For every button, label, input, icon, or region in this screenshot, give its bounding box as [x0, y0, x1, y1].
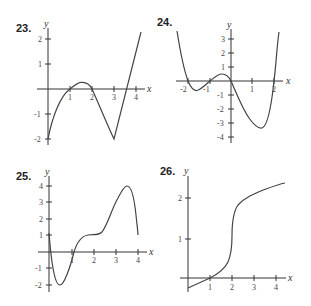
y-axis-label: y — [44, 166, 50, 177]
svg-text:1: 1 — [178, 235, 182, 244]
svg-text:-1: -1 — [35, 264, 42, 273]
svg-text:1: 1 — [250, 85, 254, 94]
svg-text:4: 4 — [39, 182, 43, 191]
svg-text:2: 2 — [92, 256, 96, 265]
svg-text:-2: -2 — [180, 85, 187, 94]
svg-text:2: 2 — [39, 215, 43, 224]
graphs-svg: x y 1 2 3 4 2 1 -1 -2 x y -2 -1 1 2 — [0, 0, 311, 306]
svg-text:-3: -3 — [217, 119, 224, 128]
x-axis-label: x — [146, 83, 152, 94]
graph-26: x y 1 2 3 4 2 1 — [178, 165, 293, 292]
x-axis-label: x — [287, 272, 293, 283]
svg-text:4: 4 — [134, 93, 138, 102]
curve-26 — [188, 183, 285, 288]
svg-text:-4: -4 — [217, 133, 224, 142]
y-axis-label: y — [226, 19, 232, 30]
svg-text:-1: -1 — [34, 110, 41, 119]
graph-25: x y 1 2 3 4 4 3 2 1 -1 -2 — [35, 166, 154, 292]
svg-text:2: 2 — [178, 194, 182, 203]
x-axis-label: x — [285, 75, 291, 86]
svg-text:4: 4 — [136, 256, 140, 265]
svg-text:3: 3 — [112, 93, 116, 102]
svg-text:2: 2 — [38, 35, 42, 44]
exercise-graphs-panel: 23. 24. 25. 26. x y 1 2 3 4 2 1 -1 -2 x — [0, 0, 311, 306]
curve-23 — [48, 32, 141, 139]
svg-text:1: 1 — [68, 93, 72, 102]
svg-text:4: 4 — [274, 283, 278, 292]
svg-text:1: 1 — [221, 63, 225, 72]
graph-24: x y -2 -1 1 2 3 2 1 -1 -2 -3 -4 — [176, 19, 291, 143]
svg-text:-2: -2 — [34, 135, 41, 144]
y-axis-label: y — [43, 18, 49, 29]
svg-text:3: 3 — [114, 256, 118, 265]
svg-text:3: 3 — [39, 198, 43, 207]
svg-text:3: 3 — [221, 35, 225, 44]
y-axis-label: y — [183, 165, 189, 176]
curve-25 — [49, 186, 138, 285]
svg-text:-2: -2 — [35, 281, 42, 290]
svg-text:2: 2 — [221, 49, 225, 58]
svg-text:2: 2 — [230, 283, 234, 292]
svg-text:2: 2 — [90, 93, 94, 102]
x-axis-label: x — [148, 246, 154, 257]
svg-text:-1: -1 — [217, 91, 224, 100]
curve-24 — [177, 31, 279, 128]
graph-23: x y 1 2 3 4 2 1 -1 -2 — [34, 18, 152, 145]
svg-text:3: 3 — [252, 283, 256, 292]
svg-text:1: 1 — [38, 60, 42, 69]
svg-text:1: 1 — [208, 283, 212, 292]
svg-text:1: 1 — [39, 231, 43, 240]
svg-text:-2: -2 — [217, 105, 224, 114]
